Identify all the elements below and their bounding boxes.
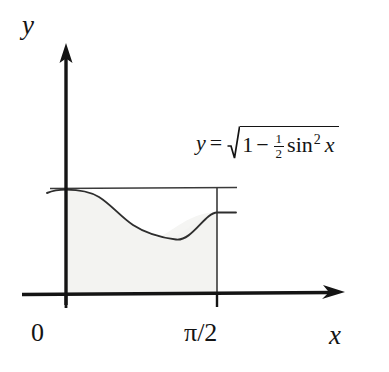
equation-equals-sign: = <box>210 132 222 154</box>
x-axis-label: x <box>329 322 341 349</box>
x-tick-label-pi-over-2: π/2 <box>184 320 217 346</box>
reference-line-y-equals-1 <box>50 188 237 189</box>
fraction-denominator: 2 <box>274 146 285 160</box>
equation-variable-x: x <box>325 134 335 156</box>
fraction-numerator: 1 <box>274 132 285 145</box>
function-graph-figure <box>0 0 389 372</box>
shaded-area-under-curve-fill <box>66 190 217 293</box>
radicand-minus-sign: − <box>256 134 268 156</box>
equation-annotation: y = 1 − 1 2 sin 2 x <box>196 126 339 160</box>
sine-exponent: 2 <box>314 133 321 147</box>
y-axis-label: y <box>22 12 34 39</box>
one-half-fraction: 1 2 <box>274 132 285 160</box>
radicand: 1 − 1 2 sin 2 x <box>240 126 338 160</box>
radical-sign-icon <box>227 125 240 159</box>
x-axis-line <box>22 293 332 295</box>
radicand-one: 1 <box>242 134 253 156</box>
x-tick-label-origin: 0 <box>31 320 44 346</box>
square-root-group: 1 − 1 2 sin 2 x <box>227 126 338 160</box>
equation-lhs: y <box>196 132 206 154</box>
sine-function-name: sin <box>287 134 313 156</box>
